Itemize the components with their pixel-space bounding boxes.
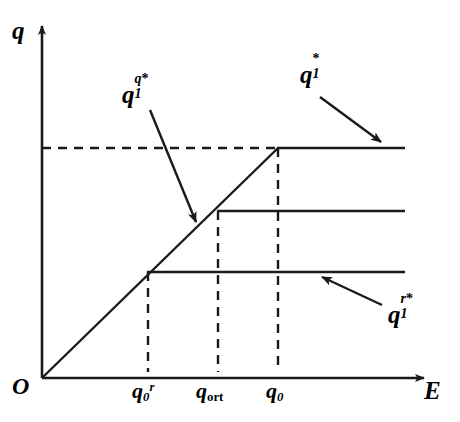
tick-label-qort-base: q — [196, 378, 207, 403]
y-axis-label: q — [12, 18, 25, 43]
curve-label-q1-r-star-sub: 1 — [401, 307, 408, 321]
tick-label-q0r: q0r — [132, 380, 154, 404]
tick-label-q0: q0 — [266, 380, 283, 404]
curve-label-q1-r-star-stack: r*1 — [401, 298, 419, 323]
curve-label-q1-star-base: q — [300, 61, 313, 88]
curve-label-q1-r-star-sup-star: * — [406, 291, 413, 306]
x-axis-label: E — [424, 378, 441, 403]
curve-label-q1-q-star-base: q — [122, 81, 135, 108]
pointer-arrow-q1-star — [320, 97, 381, 142]
diagram-canvas — [0, 0, 460, 422]
curve-label-q1-r-star: qr*1 — [388, 298, 419, 327]
curve-label-q1-q-star-sup-letter: q — [135, 71, 142, 86]
origin-label: O — [12, 374, 29, 398]
curve-label-q1-star: q*1 — [300, 58, 331, 87]
curve-label-q1-q-star-stack: q*1 — [135, 78, 153, 103]
curve-label-q1-r-star-base: q — [388, 301, 401, 328]
pointer-arrow-q1-q-star — [150, 110, 196, 222]
curve-label-q1-q-star-sup-star: * — [142, 71, 149, 86]
curve-label-q1-star-stack: *1 — [313, 58, 331, 83]
tick-label-q0r-base: q — [132, 378, 143, 403]
tick-label-q0-base: q — [266, 378, 277, 403]
quasi-fermi-level-diagram: q E O q0r qort q0 qq*1 q*1 qr*1 — [0, 0, 460, 422]
tick-label-qort-sub: ort — [207, 390, 223, 404]
curve-label-q1-q-star-sup: q* — [135, 72, 149, 86]
diagonal-ramp-line — [43, 148, 278, 377]
curve-label-q1-r-star-sup: r* — [401, 292, 413, 306]
tick-label-qort: qort — [196, 380, 223, 404]
curve-label-q1-star-sup: * — [313, 52, 320, 66]
curve-label-q1-star-sub: 1 — [313, 67, 320, 81]
tick-label-q0-sub: 0 — [277, 390, 283, 404]
tick-label-q0r-sup: r — [149, 380, 154, 394]
curve-label-q1-q-star: qq*1 — [122, 78, 153, 107]
curve-label-q1-q-star-sub: 1 — [135, 87, 142, 101]
pointer-arrow-q1-r-star — [322, 277, 382, 305]
